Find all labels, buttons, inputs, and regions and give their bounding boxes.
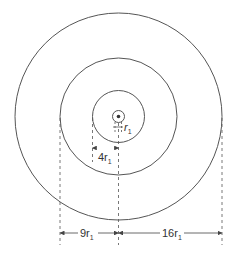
label-4r1: 4r1	[98, 151, 112, 165]
label-9r1: 9r1	[80, 227, 94, 241]
label-r1: r1	[124, 121, 132, 135]
concentric-orbits-diagram: r1 4r1 9r1 16r1	[0, 0, 242, 257]
label-16r1: 16r1	[162, 227, 182, 241]
guide-lines	[60, 118, 222, 245]
nucleus-dot	[117, 115, 121, 119]
